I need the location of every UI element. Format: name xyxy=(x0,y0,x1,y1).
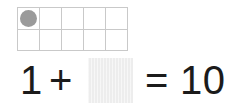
ten-frame-grid xyxy=(17,7,128,51)
ten-frame-cell-7[interactable] xyxy=(40,30,62,52)
ten-frame-cell-1[interactable] xyxy=(18,8,40,30)
ten-frame-cell-5[interactable] xyxy=(106,8,128,30)
ten-frame-cell-2[interactable] xyxy=(40,8,62,30)
plus-sign-icon: + xyxy=(45,56,77,104)
ten-frame-cell-10[interactable] xyxy=(106,30,128,52)
ten-frame-cell-8[interactable] xyxy=(62,30,84,52)
gray-circle-counter-icon xyxy=(20,10,37,27)
equation-addend-one: 1 xyxy=(20,56,42,104)
equals-sign-icon: = xyxy=(140,56,174,104)
equation-row: 1 + = 10 xyxy=(0,56,226,104)
equation-sum: 10 xyxy=(180,56,222,104)
ten-frame-cell-9[interactable] xyxy=(84,30,106,52)
ten-frame-cell-6[interactable] xyxy=(18,30,40,52)
ten-frame-cell-3[interactable] xyxy=(62,8,84,30)
ten-frame-cell-4[interactable] xyxy=(84,8,106,30)
worksheet-canvas: 1 + = 10 xyxy=(0,0,226,108)
blank-answer-box[interactable] xyxy=(88,58,133,103)
